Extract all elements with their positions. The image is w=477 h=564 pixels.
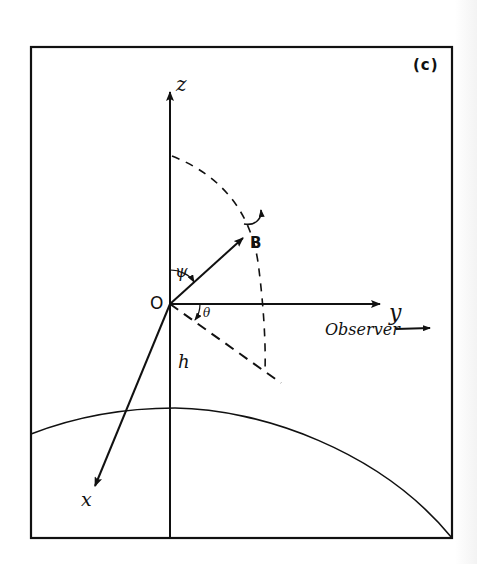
coordinate-diagram: (c) z O B ψ θ h y Observer x [0, 0, 477, 564]
theta-label: θ [203, 307, 210, 319]
point-b-label: B [250, 236, 261, 251]
h-label: h [178, 353, 190, 371]
theta-angle-arc [195, 304, 200, 320]
psi-label: ψ [175, 264, 188, 280]
figure-frame [31, 47, 452, 538]
panel-label: (c) [413, 58, 439, 73]
z-axis-label: z [176, 74, 187, 94]
rotation-arrow-icon [244, 210, 261, 224]
earth-surface-arc [31, 408, 452, 538]
observer-label: Observer [325, 322, 400, 338]
diagram-drawing [0, 0, 477, 564]
x-axis [95, 304, 170, 486]
origin-label: O [150, 295, 163, 312]
observer-arrow-icon [396, 328, 430, 329]
x-axis-label: x [81, 490, 92, 509]
